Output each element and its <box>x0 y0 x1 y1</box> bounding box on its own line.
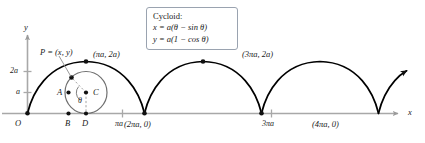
arch1-apex-label: (πa, 2a) <box>93 50 120 59</box>
point-P-label: P = (x, y) <box>40 48 72 57</box>
point-P-leader <box>59 56 71 77</box>
cycloid-curve <box>28 62 407 114</box>
point-C-label: C <box>93 88 99 97</box>
cusp1-label: (2πa, 0) <box>124 120 151 129</box>
formula-equation-x: x = a(θ − sin θ) <box>153 22 232 33</box>
point-D-label: D <box>82 119 88 128</box>
y-axis-label: y <box>24 23 28 32</box>
cusp2-marker <box>259 111 264 116</box>
rolling-circle-group <box>65 72 107 116</box>
arch2-apex-label: (3πa, 2a) <box>242 50 273 59</box>
point-C-marker <box>84 90 88 94</box>
arch2-apex-marker <box>201 59 206 64</box>
x-tick-3pia: 3πa <box>262 120 274 128</box>
cusp1-marker <box>142 111 147 116</box>
formula-title: Cycloid: <box>153 11 232 22</box>
cusp2-label: (4πa, 0) <box>312 120 339 129</box>
arch1-apex-marker <box>84 59 89 64</box>
x-axis-label: x <box>408 108 412 117</box>
origin-marker <box>25 111 30 116</box>
point-B-label: B <box>65 119 70 128</box>
point-B-marker <box>66 111 70 115</box>
formula-equation-y: y = a(1 − cos θ) <box>153 34 232 45</box>
x-axis <box>2 110 398 118</box>
point-A-label: A <box>57 88 62 97</box>
point-A-marker <box>66 90 70 94</box>
point-D-marker <box>84 111 88 115</box>
formula-box: Cycloid: x = a(θ − sin θ) y = a(1 − cos … <box>146 7 238 50</box>
x-tick-pia: πa <box>115 120 123 128</box>
point-P-marker <box>69 75 74 80</box>
angle-theta-label: θ <box>78 97 82 105</box>
y-tick-2a: 2a <box>10 67 18 75</box>
cycloid-figure: Cycloid: x = a(θ − sin θ) y = a(1 − cos … <box>0 0 425 143</box>
origin-label: O <box>15 119 21 128</box>
y-tick-a: a <box>16 88 20 96</box>
